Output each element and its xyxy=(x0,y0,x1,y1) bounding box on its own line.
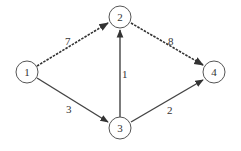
node-3: 3 xyxy=(109,117,131,139)
edge-label-1-3: 3 xyxy=(66,103,72,115)
node-label-4: 4 xyxy=(211,66,217,78)
edge-2-4 xyxy=(131,23,203,65)
node-label-1: 1 xyxy=(24,66,30,78)
edge-label-3-2: 1 xyxy=(122,68,128,80)
edge-label-2-4: 8 xyxy=(168,35,174,47)
node-4: 4 xyxy=(203,61,225,83)
edge-1-3 xyxy=(37,78,108,122)
node-label-2: 2 xyxy=(117,11,123,23)
edge-label-3-4: 2 xyxy=(167,104,173,116)
edge-1-2 xyxy=(37,23,108,66)
node-1: 1 xyxy=(16,61,38,83)
graph-diagram: 7 8 3 1 2 1 2 3 4 xyxy=(0,0,241,151)
edge-label-1-2: 7 xyxy=(65,35,71,47)
node-label-3: 3 xyxy=(117,122,123,134)
node-2: 2 xyxy=(109,6,131,28)
